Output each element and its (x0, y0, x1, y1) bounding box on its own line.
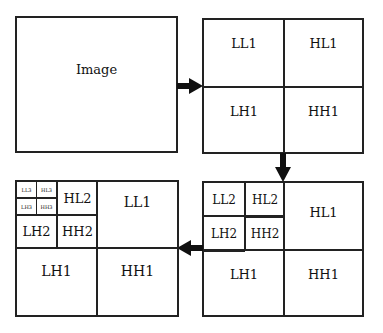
subband-label: HH1 (121, 263, 154, 315)
subband-hl1: HL1 (285, 20, 362, 87)
subband-label: LH2 (22, 224, 50, 239)
subband-lh2: LH2 (17, 216, 56, 247)
subband-hl2: HL2 (58, 182, 97, 214)
subband-label: HL2 (63, 191, 91, 206)
subband-label: LH1 (41, 263, 71, 315)
level1-panel: LL1 HL1 LH1 HH1 (202, 18, 364, 154)
subband-hh2: HH2 (58, 216, 97, 247)
subband-hl3: HL3 (37, 182, 56, 198)
subband-label: LL2 (212, 193, 236, 207)
subband-hh2: HH2 (246, 217, 284, 250)
subband-hh1: HH1 (285, 251, 362, 315)
subband-label: LL3 (22, 187, 32, 193)
subband-label: LH2 (211, 227, 237, 241)
subband-label: HH1 (308, 104, 339, 152)
subband-label: LL1 (231, 36, 257, 87)
subband-label: LH1 (230, 104, 258, 152)
subband-hh1: HH1 (98, 249, 177, 315)
subband-ll1: LL1 (98, 182, 177, 247)
subband-hl1: HL1 (285, 183, 362, 250)
subband-label: LL1 (124, 194, 152, 247)
subband-ll3: LL3 (17, 182, 36, 198)
level3-panel: LL3 HL3 LH3 HH3 HL2 LH2 HH2 LL1 LH1 HH1 (15, 180, 179, 317)
subband-label: HH1 (308, 267, 339, 315)
subband-lh1: LH1 (204, 251, 284, 315)
subband-label: HL1 (309, 205, 337, 250)
subband-ll1: LL1 (204, 20, 284, 87)
subband-label: HH2 (251, 227, 280, 241)
subband-lh3: LH3 (17, 199, 36, 215)
subband-label: HL1 (309, 36, 337, 87)
arrow-left-icon (177, 240, 203, 256)
arrow-down-icon (275, 153, 291, 182)
level2-panel: LL2 HL2 LH2 HH2 HL1 LH1 HH1 (202, 181, 364, 317)
subband-ll2: LL2 (204, 183, 244, 216)
subband-label: LH1 (230, 267, 258, 315)
subband-hh1: HH1 (285, 88, 362, 152)
subband-lh2: LH2 (204, 217, 244, 250)
image-label-cell: Image (17, 18, 176, 151)
subband-lh1: LH1 (17, 249, 96, 315)
subband-label: HH3 (41, 204, 53, 210)
subband-label: HL3 (41, 187, 52, 193)
subband-lh1: LH1 (204, 88, 284, 152)
subband-label: HL2 (252, 193, 278, 207)
subband-label: HH2 (62, 224, 93, 239)
subband-hh3: HH3 (37, 199, 56, 215)
arrow-right-icon (177, 78, 203, 94)
subband-label: LH3 (21, 204, 32, 210)
original-image-panel: Image (15, 16, 178, 153)
image-label: Image (76, 62, 117, 77)
subband-hl2: HL2 (246, 183, 284, 216)
